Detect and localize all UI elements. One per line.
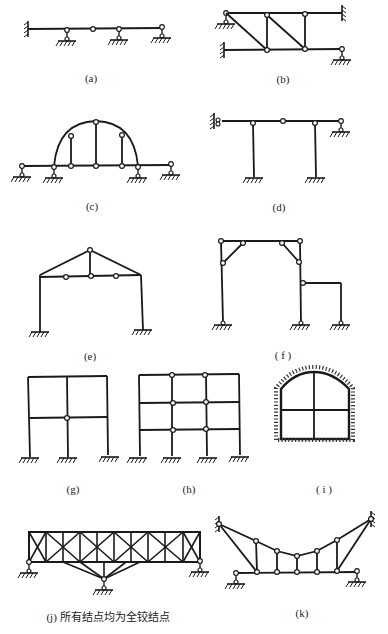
diagram-k: [215, 511, 375, 589]
caption-f: ( f ): [275, 349, 292, 361]
diagram-c: [11, 120, 180, 183]
caption-e: (e): [84, 350, 96, 362]
caption-k: (k): [296, 607, 309, 619]
diagram-j: [18, 532, 209, 595]
caption-a: (a): [85, 72, 97, 84]
structural-diagrams-figure: [0, 0, 388, 634]
caption-c: (c): [86, 200, 98, 212]
caption-b: (b): [277, 73, 290, 85]
diagram-a: [24, 21, 171, 46]
caption-i: ( i ): [316, 483, 332, 495]
diagram-g: [19, 376, 119, 463]
caption-d: (d): [273, 201, 286, 213]
diagram-f: [212, 239, 350, 330]
caption-j: (j) 所有结点均为全铰结点: [46, 608, 169, 624]
diagram-h: [127, 373, 249, 463]
caption-h: (h): [183, 483, 196, 495]
caption-g: (g): [67, 483, 80, 495]
diagram-d: [210, 113, 350, 183]
diagram-e: [29, 248, 152, 337]
diagram-i: [276, 367, 353, 440]
diagram-b: [215, 5, 351, 65]
